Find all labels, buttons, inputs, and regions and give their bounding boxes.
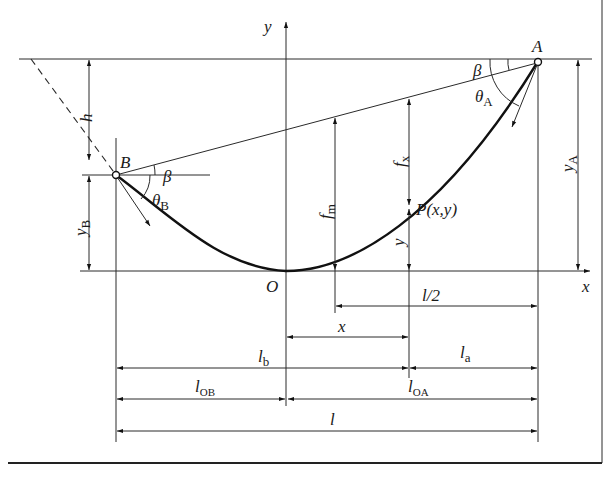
ya-label: yA [558, 154, 580, 174]
x-axis-label: x [581, 277, 590, 296]
point-b-label: B [120, 153, 131, 172]
origin-label: O [266, 277, 278, 296]
l-half-label: l/2 [422, 286, 440, 305]
loa-label: lOA [408, 377, 429, 398]
beta-a-label: β [472, 61, 482, 80]
support-b [113, 172, 120, 179]
beta-arc-b [154, 165, 155, 175]
theta-b-label: θB [152, 191, 169, 213]
support-a [535, 59, 542, 66]
yb-label: yB [71, 219, 93, 238]
la-label: la [460, 343, 471, 365]
lob-label: lOB [195, 377, 215, 398]
fx-label: fx [390, 155, 412, 167]
tangent-arrow-b [117, 177, 150, 226]
fm-label: fm [316, 204, 338, 219]
h-label: h [77, 114, 96, 123]
point-a-label: A [531, 37, 543, 56]
y-label: y [389, 238, 408, 248]
x-label: x [337, 317, 346, 336]
point-p-label: P(x,y) [415, 200, 457, 219]
theta-a-label: θA [475, 87, 493, 109]
tangent-extension-dashed [31, 59, 116, 175]
beta-b-label: β [162, 167, 172, 186]
y-axis-label: y [262, 17, 272, 36]
l-label: l [330, 410, 335, 429]
cable-curve [116, 63, 537, 271]
lb-label: lb [258, 347, 269, 369]
beta-arc-a [508, 59, 509, 70]
suspended-cable-diagram: y x O B A β θB β θA h yB yA [0, 0, 607, 484]
